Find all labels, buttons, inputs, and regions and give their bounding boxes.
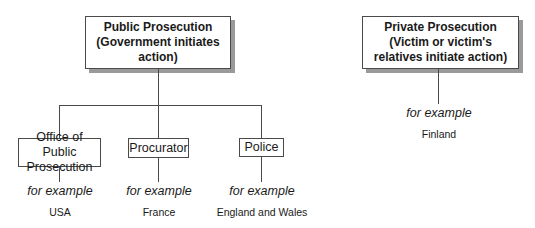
private-prosecution-box: Private Prosecution (Victim or victim's … xyxy=(362,16,519,69)
procurator-example-country: France xyxy=(99,206,219,218)
connector-police-example xyxy=(261,157,262,182)
connector-police xyxy=(261,105,262,138)
office-public-prosecution-box: Office of Public Prosecution xyxy=(18,138,101,167)
public-prosecution-box: Public Prosecution (Government initiates… xyxy=(85,16,231,69)
private-prosecution-subtitle: (Victim or victim's relatives initiate a… xyxy=(363,35,518,65)
connector-horizontal xyxy=(59,105,262,106)
procurator-example-label: for example xyxy=(99,184,219,198)
police-example-label: for example xyxy=(202,184,322,198)
police-example-country: England and Wales xyxy=(202,206,322,218)
connector-procurator-example xyxy=(158,158,159,182)
private-example-country: Finland xyxy=(379,128,499,140)
connector-private-example xyxy=(438,69,439,104)
public-prosecution-subtitle: (Government initiates action) xyxy=(86,35,230,65)
procurator-label: Procurator xyxy=(129,141,188,156)
private-example-label: for example xyxy=(379,106,499,120)
procurator-box: Procurator xyxy=(128,138,189,158)
public-prosecution-title: Public Prosecution xyxy=(86,20,230,35)
police-box: Police xyxy=(239,138,284,157)
connector-procurator xyxy=(158,105,159,138)
police-label: Police xyxy=(240,140,283,155)
private-prosecution-title: Private Prosecution xyxy=(363,20,518,35)
connector-public-down xyxy=(158,69,159,105)
connector-office-example xyxy=(59,167,60,182)
